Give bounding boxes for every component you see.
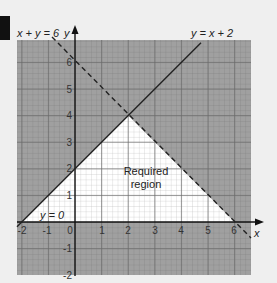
y-axis-arrow-icon [72,25,79,34]
svg-text:1: 1 [99,225,105,236]
svg-text:4: 4 [66,110,72,121]
x-tick-labels: -2 -1 0 1 2 3 4 5 6 [18,225,238,236]
label-x-plus-y-equals-6: x + y = 6 [16,27,60,39]
svg-text:-1: -1 [43,225,52,236]
svg-text:3: 3 [66,137,72,148]
label-y-equals-x-plus-2: y = x + 2 [190,27,233,39]
x-axis-arrow-icon [255,219,264,226]
svg-text:6: 6 [66,57,72,68]
svg-text:-1: -1 [63,243,72,254]
svg-text:2: 2 [125,225,131,236]
label-y-equals-0: y = 0 [39,209,65,221]
svg-text:region: region [131,178,162,190]
svg-text:0: 0 [67,225,73,236]
svg-text:Required: Required [124,165,169,177]
chart-svg: -2 -1 0 1 2 3 4 5 6 -2 -1 1 2 3 4 5 6 y … [0,0,277,283]
svg-text:1: 1 [66,190,72,201]
svg-text:5: 5 [205,225,211,236]
svg-text:-2: -2 [18,225,27,236]
svg-text:-2: -2 [63,270,72,281]
svg-text:2: 2 [66,163,72,174]
y-axis-label: y [63,27,71,39]
svg-text:5: 5 [66,84,72,95]
svg-text:6: 6 [231,225,237,236]
svg-text:3: 3 [152,225,158,236]
x-axis-label: x [253,227,260,239]
svg-text:4: 4 [178,225,184,236]
chart-figure: -2 -1 0 1 2 3 4 5 6 -2 -1 1 2 3 4 5 6 y … [0,0,277,283]
